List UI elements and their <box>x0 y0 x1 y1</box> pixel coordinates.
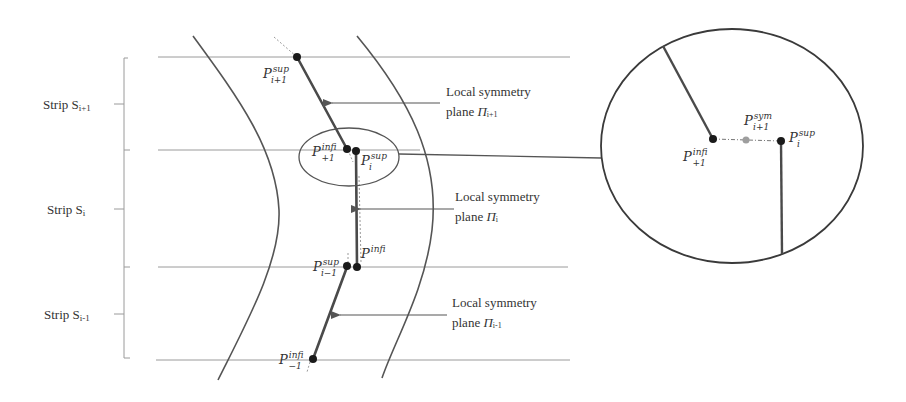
plane-label-i-1-line1: Local symmetry <box>452 295 537 310</box>
callout-connector-line <box>399 154 601 158</box>
point-p-inf-i+1 <box>343 145 351 153</box>
zoom-callout <box>299 128 601 186</box>
inset-label-p-sym-i+1: Psymi+1 <box>743 111 772 132</box>
inset-circle <box>601 29 863 263</box>
dashed-extensions <box>274 37 361 372</box>
inset-label-p-inf-i+1: Pinfi+1 <box>682 147 707 168</box>
endpoints <box>293 53 361 363</box>
inset-segment-plane-i+1 <box>663 46 713 139</box>
symmetry-segments <box>297 57 357 359</box>
segment-plane-i-1 <box>313 267 347 359</box>
point-p-sup-i-1 <box>343 262 351 270</box>
left-contour-curve <box>193 36 279 380</box>
plane-label-i-line1: Local symmetry <box>455 189 540 204</box>
segment-plane-i <box>356 151 357 266</box>
point-p-sup-i+1 <box>293 53 301 61</box>
strip-bracket <box>114 58 130 358</box>
inset-point-p-sym-i+1 <box>743 137 750 144</box>
label-p-sup-i-1: Psupi−1 <box>312 257 339 278</box>
strip-label-i: Strip Si <box>47 202 86 218</box>
strip-labels: Strip Si+1 Strip Si Strip Si-1 <box>43 97 91 323</box>
label-p-inf-i-1: Pinfi−1 <box>278 350 303 371</box>
plane-label-i-line2: plane Πi <box>455 209 499 224</box>
inset-detail: Pinfi+1 Psymi+1 Psupi <box>601 29 863 263</box>
point-p-sup-i <box>352 147 360 155</box>
inset-segment-plane-i <box>781 141 782 254</box>
dash-above-p-sup-i+1 <box>274 37 297 57</box>
dash-below-p-inf-i-1 <box>307 362 310 372</box>
strip-label-i-1: Strip Si-1 <box>44 307 90 323</box>
inset-label-p-sup-i: Psupi <box>788 128 815 149</box>
right-contour-curve <box>357 36 433 378</box>
plane-labels: Local symmetry plane Πi+1 Local symmetry… <box>446 84 540 330</box>
label-p-sup-i: Psupi <box>360 151 387 172</box>
plane-label-i+1-line2: plane Πi+1 <box>446 104 498 119</box>
inset-point-p-inf-i+1 <box>709 135 717 143</box>
inset-point-p-sup-i <box>777 137 785 145</box>
label-p-inf-i+1: Pinfi+1 <box>311 142 336 163</box>
bracket-spine <box>124 58 130 358</box>
point-p-inf-i <box>353 263 361 271</box>
strip-label-i+1: Strip Si+1 <box>43 97 91 113</box>
diagram-canvas: Strip Si+1 Strip Si Strip Si-1 Psupi+1 P… <box>0 0 906 402</box>
plane-label-i+1-line1: Local symmetry <box>446 84 531 99</box>
plane-label-i-1-line2: plane Πi-1 <box>452 315 502 330</box>
label-p-sup-i+1: Psupi+1 <box>262 64 289 85</box>
label-p-inf-i: Pinfi <box>360 244 385 261</box>
point-p-inf-i-1 <box>309 355 317 363</box>
plane-arrows <box>332 103 454 315</box>
